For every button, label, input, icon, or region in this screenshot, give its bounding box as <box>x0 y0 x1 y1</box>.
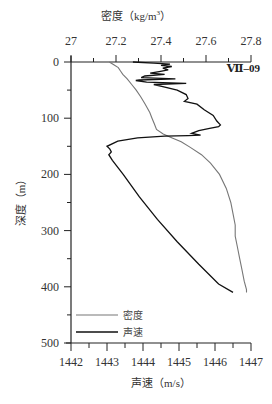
top-tick-label: 27.8 <box>241 34 262 48</box>
depth-tick-label: 500 <box>41 336 59 350</box>
top-tick-label: 27 <box>65 34 77 48</box>
top-axis-title: 密度（kg/m3） <box>101 9 171 22</box>
sound-speed-series-line <box>107 62 233 292</box>
depth-tick-label: 0 <box>53 55 59 69</box>
bottom-tick-label: 1443 <box>95 355 119 369</box>
bottom-axis-title: 声速（m/s） <box>131 376 191 389</box>
depth-tick-label: 300 <box>41 224 59 238</box>
bottom-tick-label: 1445 <box>167 355 191 369</box>
station-label: Ⅶ–09 <box>226 62 261 74</box>
top-tick-label: 27.6 <box>196 34 217 48</box>
legend-density-label: 密度 <box>123 309 143 321</box>
top-axis: 2727.227.427.627.8 <box>65 34 262 62</box>
top-tick-label: 27.4 <box>151 34 172 48</box>
legend: 密度 声速 <box>76 309 143 338</box>
bottom-tick-label: 1446 <box>203 355 227 369</box>
depth-tick-label: 100 <box>41 111 59 125</box>
density-series-line <box>109 62 246 292</box>
bottom-tick-label: 1447 <box>239 355 263 369</box>
depth-axis: 0100200300400500 <box>41 55 71 350</box>
depth-tick-label: 200 <box>41 167 59 181</box>
y-axis-title: 深度（m） <box>14 174 27 227</box>
top-tick-label: 27.2 <box>106 34 127 48</box>
bottom-tick-label: 1442 <box>59 355 83 369</box>
bottom-axis: 144214431444144514461447 <box>59 343 263 369</box>
bottom-tick-label: 1444 <box>131 355 155 369</box>
depth-tick-label: 400 <box>41 280 59 294</box>
legend-speed-label: 声速 <box>123 326 143 338</box>
chart: 密度（kg/m3） 2727.227.427.627.8 01002003004… <box>0 0 272 404</box>
